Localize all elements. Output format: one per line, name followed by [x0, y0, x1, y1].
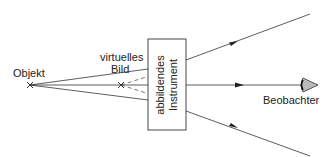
eye-icon	[301, 78, 318, 92]
diagram-canvas: Objekt virtuelles Bild abbildendes Instr…	[0, 0, 331, 157]
outgoing-rays	[186, 14, 310, 156]
instrument-label-line2: Instrument	[167, 59, 179, 111]
arrow-upper-icon	[229, 41, 238, 46]
virtual-image-label-line2: Bild	[111, 63, 129, 75]
virtual-image-label-line1: virtuelles	[100, 51, 144, 63]
instrument-label-line1: abbildendes	[154, 55, 166, 115]
object-label: Objekt	[13, 67, 45, 79]
arrow-middle-icon	[235, 83, 244, 88]
arrowheads	[229, 41, 244, 128]
observer-label: Beobachter	[263, 94, 320, 106]
incoming-rays	[30, 69, 148, 100]
